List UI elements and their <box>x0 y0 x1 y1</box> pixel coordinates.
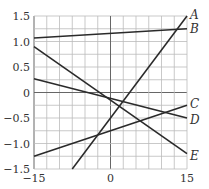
series-label-a: A <box>189 8 199 22</box>
y-tick-1.0: 1.0 <box>13 36 31 49</box>
x-tick-0: 0 <box>107 172 114 185</box>
y-tick-0.5: 0.5 <box>13 61 31 74</box>
y-tick-0: 0 <box>23 87 30 100</box>
y-tick-1.5: 1.5 <box>13 10 31 23</box>
series-label-e: E <box>189 149 199 163</box>
grid <box>34 16 187 169</box>
chart: 1.5 1.0 0.5 0 −0.5 −1.0 −1.5 −15 0 15 A … <box>0 0 209 189</box>
series-label-c: C <box>190 97 199 111</box>
chart-svg: 1.5 1.0 0.5 0 −0.5 −1.0 −1.5 −15 0 15 A … <box>0 0 209 189</box>
series-label-b: B <box>189 22 199 36</box>
x-tick-15: 15 <box>180 172 194 185</box>
x-tick-neg15: −15 <box>22 172 45 185</box>
series-label-d: D <box>189 113 200 127</box>
y-tick-neg1.0: −1.0 <box>3 138 30 151</box>
y-tick-neg0.5: −0.5 <box>3 112 30 125</box>
